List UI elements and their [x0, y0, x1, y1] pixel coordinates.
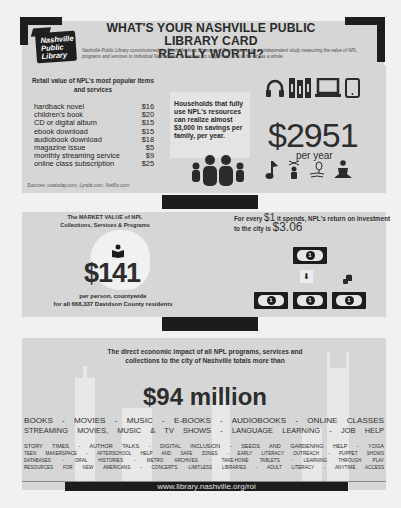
- services-line: BOOKS - MOVIES - MUSIC - E-BOOKS - AUDIO…: [24, 416, 384, 426]
- skyline-spire: [346, 352, 349, 370]
- market-value-title-line-2: Collections, Services & Programs: [40, 222, 170, 230]
- dollar-bill-icon: 1: [254, 292, 288, 309]
- intro-text: Nashville Public Library commissioned th…: [82, 48, 360, 59]
- market-value-amount: $141: [84, 258, 140, 289]
- item-price: $25: [142, 160, 154, 168]
- roi-return-value: $3.06: [273, 220, 303, 234]
- market-value-title-line-1: The MARKET VALUE of NPL: [40, 214, 170, 222]
- activity-icons-row: [265, 160, 353, 180]
- yoga-icon: [333, 160, 353, 180]
- puppet-icon: [287, 160, 301, 180]
- services-line: TEEN MAKERSPACE - AFTERSCHOOL HELP AND S…: [24, 451, 384, 458]
- headphones-icon: [265, 78, 285, 98]
- arrow-down-icon: ⬇: [300, 270, 313, 283]
- list-item: online class subscription$25: [34, 160, 154, 168]
- impact-amount: $94 million: [115, 383, 295, 411]
- bill-symbol: 1: [267, 296, 276, 305]
- laptop-icon: [315, 78, 341, 98]
- reader-icon: [111, 244, 125, 258]
- npl-logo: Nashville Public Library: [35, 31, 77, 64]
- impact-text: The direct economic impact of all NPL pr…: [100, 347, 310, 365]
- services-line: STORY TIMES - AUTHOR TALKS - DIGITAL INC…: [24, 443, 384, 450]
- divider-bar: [162, 317, 258, 331]
- family-icon: [190, 152, 246, 188]
- media-icons-row: [265, 78, 360, 98]
- roi-text: For every $1 it spends, NPL's return on …: [234, 214, 394, 233]
- skyline-spire: [83, 366, 87, 380]
- services-line: RESOURCES FOR NEW AMERICANS - CONCERTS -…: [24, 465, 384, 472]
- household-savings-amount: $2951: [268, 118, 358, 152]
- dollar-bill-icon: 1: [332, 292, 366, 309]
- item-name: online class subscription: [34, 160, 114, 168]
- services-line: DATABASES - ORAL HISTORIES - METRO ARCHI…: [24, 458, 384, 465]
- bill-symbol: 1: [306, 251, 315, 260]
- bill-symbol: 1: [345, 296, 354, 305]
- books-icon: [289, 78, 311, 98]
- market-value-caption: per person, countywide for all 668,337 D…: [38, 292, 188, 308]
- market-value-caption-line-2: for all 668,337 Davidson County resident…: [38, 300, 188, 308]
- music-note-icon: [265, 160, 279, 180]
- seedling-hand-icon: [309, 160, 325, 180]
- dollar-bill-icon: 1: [293, 247, 327, 264]
- retail-list: hardback novel$16 children's book$20 CD …: [34, 103, 154, 169]
- title-line-1: WHAT'S YOUR NASHVILLE PUBLIC LIBRARY CAR…: [80, 22, 342, 48]
- divider-bar: [162, 195, 258, 209]
- retail-title: Retail value of NPL's most popular items…: [28, 77, 158, 94]
- tablet-icon: [345, 78, 360, 98]
- market-value-caption-line-1: per person, countywide: [38, 292, 188, 300]
- services-line: STREAMING MOVIES, MUSIC & TV SHOWS - LAN…: [24, 426, 384, 436]
- sources-note: Sources: usatoday.com, Lynda.com, Netfli…: [27, 183, 129, 188]
- skyline-spire: [327, 352, 330, 370]
- roi-text-prefix: For every: [234, 215, 264, 222]
- household-text: Households that fully use NPL's resource…: [174, 100, 254, 140]
- dollar-bill-icon: 1: [293, 292, 327, 309]
- bill-symbol: 1: [306, 296, 315, 305]
- logo-line: Library: [41, 51, 74, 61]
- coins-icon: [343, 274, 353, 284]
- footer-url-link[interactable]: www.library.nashville.org/roi: [65, 482, 348, 491]
- market-value-title: The MARKET VALUE of NPL Collections, Ser…: [40, 214, 170, 229]
